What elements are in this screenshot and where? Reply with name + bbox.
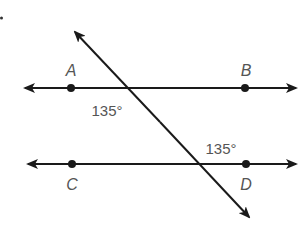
point-a	[67, 84, 75, 92]
parallel-lines-diagram: A B C D 135° 135°	[0, 0, 305, 237]
point-d	[242, 160, 250, 168]
point-b	[241, 84, 249, 92]
corner-mark	[0, 17, 3, 20]
transversal-line	[75, 32, 249, 217]
label-c: C	[66, 176, 78, 193]
angle-label-cd: 135°	[205, 140, 236, 157]
point-c	[68, 160, 76, 168]
label-d: D	[240, 176, 252, 193]
angle-label-ab: 135°	[91, 102, 122, 119]
label-b: B	[241, 62, 252, 79]
label-a: A	[65, 62, 77, 79]
